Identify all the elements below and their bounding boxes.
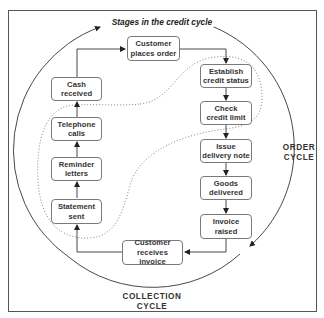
stage-label: Telephone calls bbox=[58, 120, 96, 139]
collection-cycle-label: COLLECTION CYCLE bbox=[120, 292, 184, 312]
order-cycle-label: ORDER CYCLE bbox=[281, 143, 317, 163]
stage-label: Establish credit status bbox=[203, 67, 249, 86]
stage-telephone-calls: Telephone calls bbox=[51, 117, 102, 141]
diagram-title: Stages in the credit cycle bbox=[110, 17, 214, 27]
stage-customer-places-order: Customer places order bbox=[127, 36, 180, 61]
stage-label: Statement sent bbox=[58, 202, 95, 221]
stage-customer-receives-invoice: Customer receives invoice bbox=[122, 240, 183, 265]
stage-cash-received: Cash received bbox=[51, 77, 102, 101]
stage-label: Reminder letters bbox=[59, 160, 94, 179]
stage-statement-sent: Statement sent bbox=[51, 199, 102, 224]
stage-label: Invoice raised bbox=[213, 217, 240, 236]
stage-label: Customer receives invoice bbox=[123, 238, 182, 267]
stage-issue-delivery-note: Issue delivery note bbox=[200, 139, 252, 163]
stage-label: Cash received bbox=[61, 80, 92, 99]
stage-reminder-letters: Reminder letters bbox=[51, 157, 102, 181]
stage-label: Check credit limit bbox=[207, 104, 246, 123]
stage-label: Goods delivered bbox=[209, 179, 243, 198]
stage-goods-delivered: Goods delivered bbox=[200, 176, 252, 200]
stage-establish-credit-status: Establish credit status bbox=[200, 64, 252, 88]
stage-check-credit-limit: Check credit limit bbox=[200, 101, 252, 125]
stage-label: Issue delivery note bbox=[202, 142, 250, 161]
stage-invoice-raised: Invoice raised bbox=[200, 214, 252, 239]
stage-label: Customer places order bbox=[131, 39, 177, 58]
